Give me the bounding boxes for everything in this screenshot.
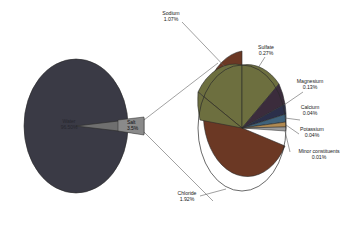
label-water: Water 96.50%: [52, 118, 86, 130]
salt-detail-pie-group: [198, 51, 286, 191]
label-magnesium-value: 0.13%: [288, 84, 332, 90]
label-salt: Salt 3.5%: [127, 119, 151, 131]
label-water-value: 96.50%: [52, 124, 86, 130]
label-calcium-value: 0.04%: [293, 110, 327, 116]
leader-sulfate: [258, 57, 265, 68]
label-chloride-value: 1.92%: [168, 196, 206, 202]
label-sodium: Sodium 1.07%: [152, 10, 190, 22]
chart-figure: Sodium 1.07% Sulfate 0.27% Magnesium 0.1…: [0, 0, 354, 226]
label-sulfate: Sulfate 0.27%: [248, 44, 284, 56]
label-sodium-value: 1.07%: [152, 16, 190, 22]
leader-sodium: [182, 22, 228, 70]
label-magnesium: Magnesium 0.13%: [288, 78, 332, 90]
label-potassium: Potassium 0.04%: [292, 126, 332, 138]
label-minor-constituents-value: 0.01%: [288, 154, 350, 160]
label-minor-constituents: Minor constituents 0.01%: [288, 148, 350, 160]
label-sulfate-value: 0.27%: [248, 50, 284, 56]
label-salt-value: 3.5%: [127, 125, 151, 131]
minor-constituents-slice[interactable]: [242, 127, 286, 131]
leader-calcium: [285, 118, 300, 120]
label-potassium-value: 0.04%: [292, 132, 332, 138]
label-chloride: Chloride 1.92%: [168, 190, 206, 202]
label-calcium: Calcium 0.04%: [293, 104, 327, 116]
